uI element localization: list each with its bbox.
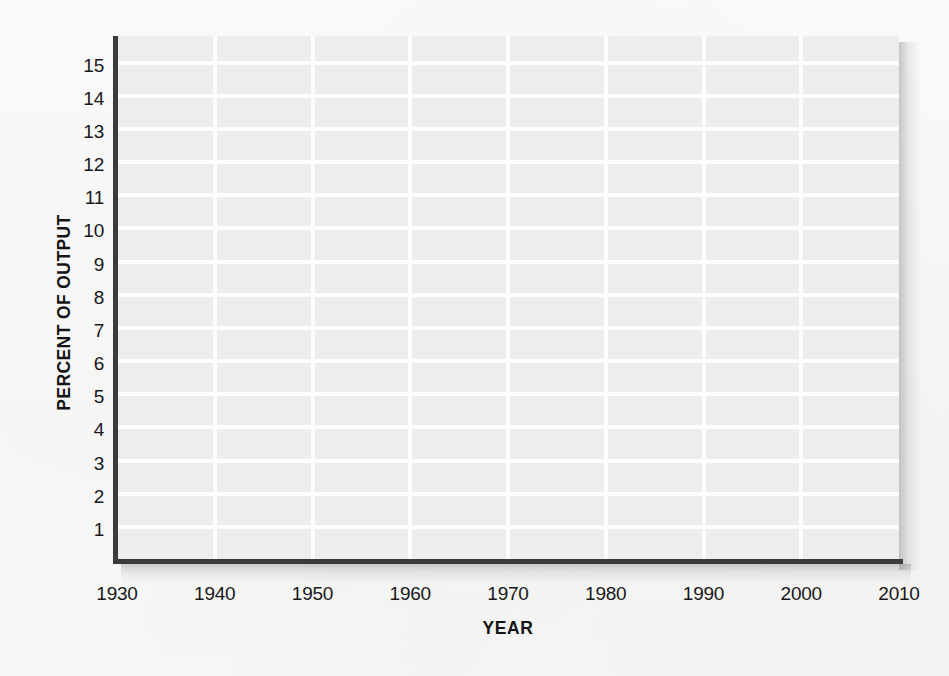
plot-area bbox=[113, 36, 899, 564]
x-axis-line bbox=[113, 559, 903, 564]
x-axis-tick-label: 1950 bbox=[268, 584, 358, 603]
y-axis-tick-label: 3 bbox=[58, 453, 104, 472]
y-axis-tick-label: 6 bbox=[58, 354, 104, 373]
y-axis-tick-label: 4 bbox=[58, 420, 104, 439]
y-axis-tick-label: 8 bbox=[58, 287, 104, 306]
y-axis-tick-label: 9 bbox=[58, 254, 104, 273]
x-axis-tick-labels: 193019401950196019701980199020002010 bbox=[113, 584, 903, 610]
x-axis-tick-label: 2000 bbox=[756, 584, 846, 603]
y-axis-tick-label: 12 bbox=[58, 155, 104, 174]
x-axis-tick-label: 1990 bbox=[659, 584, 749, 603]
x-axis-title: YEAR bbox=[113, 618, 903, 639]
plot-grid-panel bbox=[117, 36, 899, 560]
vertical-gridline bbox=[702, 36, 706, 560]
x-axis-tick-label: 2010 bbox=[854, 584, 944, 603]
y-axis-line bbox=[113, 36, 118, 564]
y-axis-tick-label: 2 bbox=[58, 486, 104, 505]
y-axis-tick-label: 14 bbox=[58, 88, 104, 107]
y-axis-tick-label: 11 bbox=[58, 188, 104, 207]
vertical-gridline bbox=[311, 36, 315, 560]
plot-shadow-right bbox=[899, 42, 921, 570]
y-axis-tick-label: 5 bbox=[58, 387, 104, 406]
x-axis-tick-label: 1980 bbox=[561, 584, 651, 603]
y-axis-tick-label: 15 bbox=[58, 55, 104, 74]
y-axis-tick-label: 1 bbox=[58, 519, 104, 538]
vertical-gridline bbox=[604, 36, 608, 560]
y-axis-tick-label: 10 bbox=[58, 221, 104, 240]
y-axis-tick-label: 13 bbox=[58, 121, 104, 140]
vertical-gridline bbox=[408, 36, 412, 560]
x-axis-tick-label: 1940 bbox=[170, 584, 260, 603]
vertical-gridline bbox=[799, 36, 803, 560]
x-axis-tick-label: 1970 bbox=[463, 584, 553, 603]
plot-shadow-bottom bbox=[121, 564, 911, 584]
x-axis-tick-label: 1930 bbox=[72, 584, 162, 603]
y-axis-tick-label: 7 bbox=[58, 320, 104, 339]
y-axis-tick-labels: 123456789101112131415 bbox=[52, 36, 104, 564]
vertical-gridline bbox=[213, 36, 217, 560]
vertical-gridline bbox=[506, 36, 510, 560]
chart-figure: PERCENT OF OUTPUT 123456789101112131415 … bbox=[0, 0, 949, 676]
x-axis-tick-label: 1960 bbox=[365, 584, 455, 603]
